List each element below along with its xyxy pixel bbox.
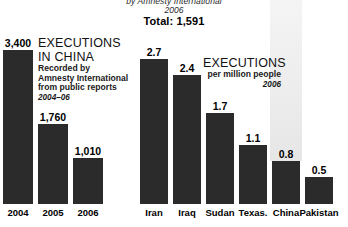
category-label-pakistan: Pakistan <box>296 208 342 218</box>
bar-value-sudan: 1.7 <box>200 101 240 112</box>
executions-per-million-bar-chart: 2.7Iran2.4Iraq1.7Sudan1.1Texas.0.8China0… <box>0 0 348 227</box>
right-year-label: 2006 <box>203 80 281 89</box>
bar-value-china: 0.8 <box>266 149 306 160</box>
bar-value-iran: 2.7 <box>134 47 174 58</box>
bar-sudan <box>206 113 234 204</box>
bar-value-texas: 1.1 <box>233 133 273 144</box>
bar-iraq <box>173 75 201 204</box>
bar-iran <box>140 59 168 204</box>
bar-china <box>272 161 300 204</box>
bar-value-iraq: 2.4 <box>167 63 207 74</box>
bar-pakistan <box>305 177 333 204</box>
right-chart-annotation: EXECUTIONS per million people 2006 <box>203 56 281 89</box>
infographic-canvas: by Amnesty International 2006 Total: 1,5… <box>0 0 348 227</box>
right-title: EXECUTIONS <box>203 56 281 70</box>
bar-texas <box>239 145 267 204</box>
bar-value-pakistan: 0.5 <box>299 165 339 176</box>
right-subtitle: per million people <box>203 70 281 80</box>
